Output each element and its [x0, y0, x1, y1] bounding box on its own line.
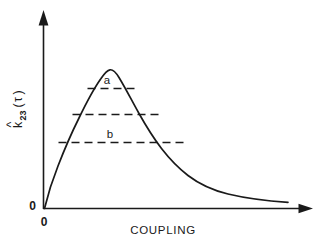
x-axis	[43, 204, 313, 213]
y-axis-title-open-paren: (	[11, 103, 25, 108]
origin-label-y: 0	[29, 199, 36, 213]
y-axis-arrow-icon	[39, 10, 49, 26]
chord-label-a: a	[104, 74, 111, 86]
chord-label-b: b	[107, 128, 113, 140]
y-axis	[39, 10, 49, 209]
y-axis-title-close-paren: )	[11, 90, 25, 94]
chord-b-group: b	[59, 128, 186, 143]
y-axis-title: ^ k 23 ( τ )	[4, 90, 28, 128]
origin-label-x: 0	[41, 215, 48, 229]
x-axis-arrow-icon	[299, 204, 314, 213]
figure-container: a b 0 0 COUPLING ^ k 23 ( τ )	[0, 0, 326, 246]
y-axis-title-symbol: k	[11, 121, 25, 128]
y-axis-title-subscript: 23	[18, 110, 28, 120]
x-axis-title: COUPLING	[130, 224, 196, 236]
data-curve-k23	[45, 70, 289, 209]
y-axis-title-argument: τ	[11, 97, 25, 102]
plot-canvas: a b 0 0 COUPLING ^ k 23 ( τ )	[0, 0, 326, 246]
